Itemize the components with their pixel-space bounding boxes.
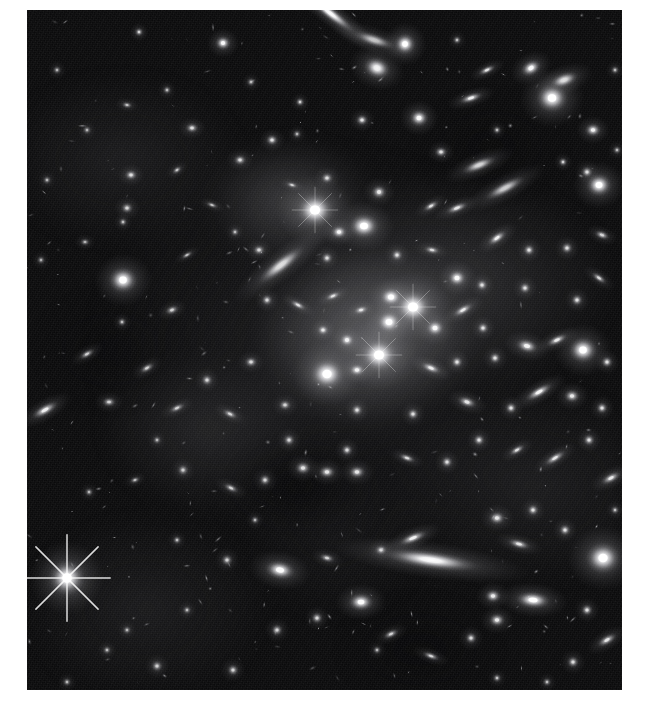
page-canvas (0, 0, 648, 717)
scan-texture-layer (27, 10, 622, 690)
galaxy-cluster-image (27, 10, 622, 690)
